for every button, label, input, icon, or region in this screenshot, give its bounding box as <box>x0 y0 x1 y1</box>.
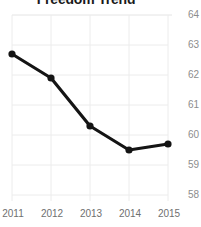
y-axis-tick-62: 62 <box>188 70 199 80</box>
x-axis-tick-2012: 2012 <box>35 208 69 219</box>
data-point-2014 <box>125 146 132 153</box>
data-point-2015 <box>164 140 171 147</box>
y-axis-tick-63: 63 <box>188 40 199 50</box>
y-axis-tick-61: 61 <box>188 100 199 110</box>
horizontal-gridlines <box>12 15 172 195</box>
data-point-2011 <box>8 50 15 57</box>
x-axis-tick-2014: 2014 <box>113 208 147 219</box>
y-axis-tick-64: 64 <box>188 10 199 20</box>
x-axis-tick-2015: 2015 <box>152 208 186 219</box>
vertical-gridlines <box>12 15 168 201</box>
x-axis-tick-2013: 2013 <box>74 208 108 219</box>
y-axis-tick-58: 58 <box>188 190 199 200</box>
chart-canvas <box>0 0 201 227</box>
y-axis-tick-60: 60 <box>188 130 199 140</box>
data-point-2012 <box>47 74 54 81</box>
data-point-2013 <box>86 122 93 129</box>
x-axis-tick-2011: 2011 <box>0 208 30 219</box>
line-chart: Freedom Trend <box>0 0 201 227</box>
plot-area: 64 63 62 61 60 59 58 2011 2012 2013 2014… <box>0 0 201 227</box>
y-axis-tick-59: 59 <box>188 160 199 170</box>
